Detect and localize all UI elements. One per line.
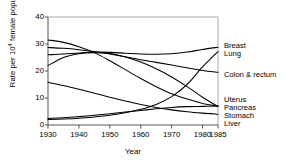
x-axis-label: Year bbox=[48, 147, 218, 156]
series-label-liver: Liver bbox=[224, 120, 240, 128]
chart-container: Rate per 104 female population 010203040… bbox=[0, 0, 295, 163]
plot-area bbox=[0, 0, 295, 163]
series-line-breast bbox=[48, 47, 218, 55]
series-label-lung: Lung bbox=[224, 50, 241, 58]
series-line-stomach bbox=[48, 82, 218, 114]
series-line-lung bbox=[48, 52, 218, 120]
series-line-uterus bbox=[48, 40, 218, 106]
series-label-colon-rectum: Colon & rectum bbox=[224, 71, 276, 79]
series-line-liver bbox=[48, 53, 218, 107]
